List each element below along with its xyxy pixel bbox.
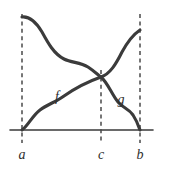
figure-canvas (0, 0, 181, 171)
tick-label-a: a (19, 148, 26, 162)
curve-label-g: g (118, 93, 125, 107)
curve-label-f: f (55, 90, 59, 104)
tick-label-c: c (98, 148, 104, 162)
function-graph-figure: a c b f g (0, 0, 181, 171)
curve-g-decreasing (22, 17, 140, 130)
tick-label-b: b (137, 148, 144, 162)
curve-f-increasing (22, 30, 140, 130)
